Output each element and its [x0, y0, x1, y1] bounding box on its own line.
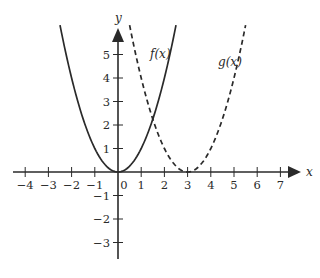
y-tick-label: 3 — [103, 95, 110, 109]
x-tick-label: 6 — [254, 178, 261, 192]
y-axis-arrow-icon — [112, 28, 124, 42]
x-tick-label: 5 — [230, 178, 237, 192]
y-tick-label: −1 — [93, 189, 110, 203]
x-tick-label: 7 — [277, 178, 284, 192]
x-tick-label: 4 — [207, 178, 214, 192]
x-ticks: −4−3−2−101234567 — [17, 167, 284, 192]
f-curve-label: f(x) — [149, 47, 171, 61]
y-tick-label: −3 — [93, 236, 110, 250]
curve-g — [130, 25, 246, 172]
y-tick-label: 1 — [103, 142, 110, 156]
y-tick-label: 2 — [103, 118, 110, 132]
y-axis-title: y — [114, 11, 122, 25]
x-tick-label: 1 — [138, 178, 145, 192]
function-graph: x y −4−3−2−101234567 −3−2−112345 f(x) g(… — [0, 0, 320, 278]
y-tick-label: −2 — [93, 212, 110, 226]
y-tick-label: 5 — [103, 48, 110, 62]
x-tick-label: −2 — [63, 178, 80, 192]
x-tick-label: 0 — [120, 178, 127, 192]
y-tick-label: 4 — [103, 71, 110, 85]
x-axis-title: x — [306, 165, 313, 179]
x-tick-label: 2 — [161, 178, 168, 192]
x-tick-label: 3 — [184, 178, 191, 192]
x-axis-arrow-icon — [288, 166, 301, 178]
y-ticks: −3−2−112345 — [93, 48, 123, 250]
g-curve-label: g(x) — [218, 55, 242, 69]
x-tick-label: −3 — [40, 178, 57, 192]
x-tick-label: −4 — [17, 178, 34, 192]
